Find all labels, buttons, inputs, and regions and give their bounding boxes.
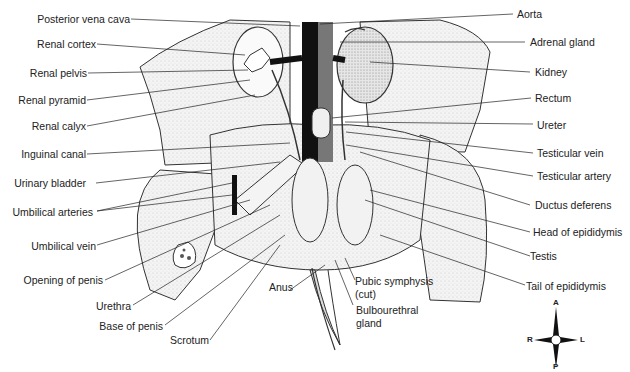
compass-left: L: [580, 335, 585, 344]
compass-anterior: A: [553, 298, 559, 307]
label-urethra: Urethra: [96, 300, 131, 312]
right-testis: [337, 165, 373, 245]
label-umbilical-vein: Umbilical vein: [31, 240, 96, 252]
label-renal-pelvis: Renal pelvis: [30, 67, 87, 79]
label-bulbourethral-gland-2: gland: [356, 317, 382, 329]
label-umbilical-arteries: Umbilical arteries: [12, 206, 93, 218]
label-ureter: Ureter: [537, 119, 566, 131]
label-scrotum: Scrotum: [170, 334, 209, 346]
label-testicular-artery: Testicular artery: [537, 170, 611, 182]
label-rectum: Rectum: [535, 92, 571, 104]
label-aorta: Aorta: [517, 8, 542, 20]
label-head-of-epididymis: Head of epididymis: [533, 226, 622, 238]
label-kidney: Kidney: [535, 66, 567, 78]
orientation-compass: [534, 307, 578, 368]
posterior-vena-cava: [302, 22, 320, 162]
label-bulbourethral-gland: Bulbourethral: [356, 304, 418, 316]
aorta: [318, 22, 333, 162]
label-tail-of-epididymis: Tail of epididymis: [526, 280, 606, 292]
label-inguinal-canal: Inguinal canal: [21, 148, 86, 160]
label-urinary-bladder: Urinary bladder: [14, 177, 86, 189]
label-testicular-vein: Testicular vein: [537, 147, 604, 159]
label-pubic-symphysis: Pubic symphysis: [355, 275, 433, 287]
label-ductus-deferens: Ductus deferens: [535, 199, 611, 211]
label-testis: Testis: [530, 250, 557, 262]
anatomy-illustration: [0, 0, 630, 372]
rectum: [312, 108, 330, 138]
label-posterior-vena-cava: Posterior vena cava: [37, 13, 130, 25]
left-testis: [292, 158, 328, 242]
label-pubic-symphysis-cut: (cut): [355, 288, 376, 300]
label-renal-cortex: Renal cortex: [37, 38, 96, 50]
label-base-of-penis: Base of penis: [99, 320, 163, 332]
label-adrenal-gland: Adrenal gland: [530, 36, 595, 48]
label-opening-of-penis: Opening of penis: [24, 274, 103, 286]
label-renal-pyramid: Renal pyramid: [18, 94, 86, 106]
label-renal-calyx: Renal calyx: [32, 120, 86, 132]
compass-posterior: P: [553, 362, 558, 371]
right-kidney: [337, 27, 393, 103]
compass-right: R: [527, 335, 533, 344]
label-anus: Anus: [269, 281, 293, 293]
